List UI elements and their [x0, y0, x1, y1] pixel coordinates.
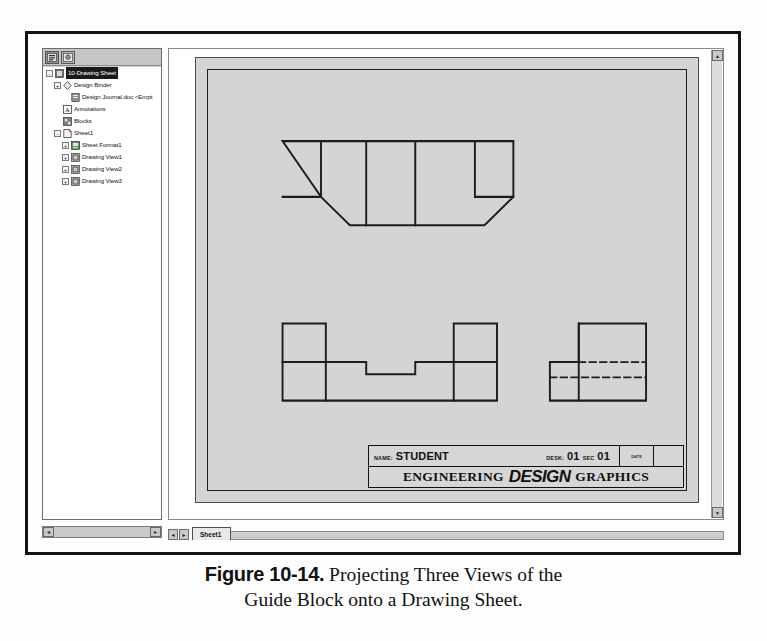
title-block-row-department: ENGINEERING DESIGN GRAPHICS — [369, 467, 683, 487]
tab-prev-button[interactable]: ◄ — [168, 529, 178, 540]
tree-item-label: Sheet1 — [74, 127, 93, 139]
tree-indent-spacer — [62, 94, 69, 101]
tree-item-label: Design Journal.doc <Empt — [82, 91, 152, 103]
tree-item-label: Blocks — [74, 115, 92, 127]
tree-horizontal-scrollbar[interactable]: ◄ ► — [42, 526, 162, 538]
right-arrow-icon: ► — [153, 529, 158, 535]
cad-application-window: -10-Drawing Sheet+Design BinderDesign Jo… — [25, 31, 741, 555]
department-word-graphics: GRAPHICS — [575, 469, 649, 485]
tree-item-sheet1[interactable]: -Sheet1 — [43, 127, 161, 139]
sheet-format-icon — [71, 141, 80, 150]
tab-prev-arrow-icon: ◄ — [171, 532, 176, 538]
name-label: NAME: — [374, 455, 393, 461]
sec-value: 01 — [597, 450, 610, 462]
desk-value: 01 — [567, 450, 580, 462]
feature-manager-tab-strip — [43, 49, 161, 66]
tree-indent-spacer — [54, 106, 61, 113]
side-view-hidden-lines — [550, 362, 646, 377]
drawing-graphics-area[interactable]: NAME: STUDENT DESK: 01 SEC 01 DATE — [168, 48, 724, 520]
tree-item-label: Drawing View3 — [82, 175, 122, 187]
tree-item-sheet-format1[interactable]: +Sheet Format1 — [43, 139, 161, 151]
tab-bar-filler — [231, 531, 724, 540]
drawing-view-icon — [71, 177, 80, 186]
sec-label: SEC — [583, 455, 595, 461]
tree-item-label: Drawing View1 — [82, 151, 122, 163]
collapse-toggle-icon[interactable]: - — [54, 130, 61, 137]
top-view-geometry — [283, 141, 514, 225]
sheet-tab-sheet1[interactable]: Sheet1 — [192, 527, 231, 540]
down-arrow-icon: ▼ — [715, 510, 720, 516]
tab-next-button[interactable]: ► — [179, 529, 189, 540]
tree-item-drawing-view3[interactable]: +Drawing View3 — [43, 175, 161, 187]
expand-toggle-icon[interactable]: + — [62, 178, 69, 185]
blocks-icon — [63, 117, 72, 126]
title-block-empty-cell — [653, 446, 683, 466]
left-arrow-icon: ◄ — [46, 529, 51, 535]
tree-scroll-right-button[interactable]: ► — [150, 527, 161, 537]
tree-item-design-journal-doc-empt[interactable]: Design Journal.doc <Empt — [43, 91, 161, 103]
drawing-document-icon — [55, 69, 64, 78]
figure-caption: Figure 10-14. Projecting Three Views of … — [0, 562, 767, 612]
tab-next-arrow-icon: ► — [182, 532, 187, 538]
tree-item-drawing-view2[interactable]: +Drawing View2 — [43, 163, 161, 175]
front-view-geometry — [283, 324, 497, 401]
property-manager-tab[interactable] — [61, 51, 75, 64]
annotations-icon: A — [63, 105, 72, 114]
expand-toggle-icon[interactable]: + — [54, 82, 61, 89]
svg-text:A: A — [65, 106, 70, 113]
orthographic-views-drawing — [196, 58, 698, 502]
graphics-vertical-scrollbar[interactable]: ▲ ▼ — [711, 50, 722, 518]
feature-manager-panel: -10-Drawing Sheet+Design BinderDesign Jo… — [42, 48, 162, 520]
date-label: DATE — [631, 454, 642, 459]
sheet-tab-bar: ◄ ► Sheet1 — [168, 526, 724, 540]
collapse-toggle-icon[interactable]: - — [46, 70, 53, 77]
figure-number: Figure 10-14. — [205, 563, 324, 585]
department-word-engineering: ENGINEERING — [403, 469, 504, 485]
tree-item-10-drawing-sheet[interactable]: -10-Drawing Sheet — [43, 67, 161, 79]
tree-item-label: Annotations — [74, 103, 106, 115]
title-block[interactable]: NAME: STUDENT DESK: 01 SEC 01 DATE — [368, 445, 684, 488]
tree-item-label: Sheet Format1 — [82, 139, 122, 151]
tree-scroll-track[interactable] — [54, 527, 150, 537]
tree-item-annotations[interactable]: AAnnotations — [43, 103, 161, 115]
caption-line-1: Projecting Three Views of the — [324, 564, 562, 585]
department-word-design: DESIGN — [509, 467, 571, 487]
name-value: STUDENT — [396, 450, 449, 462]
tree-item-label: Design Binder — [74, 79, 112, 91]
expand-toggle-icon[interactable]: + — [62, 166, 69, 173]
expand-toggle-icon[interactable]: + — [62, 142, 69, 149]
tree-item-drawing-view1[interactable]: +Drawing View1 — [43, 151, 161, 163]
tree-scroll-left-button[interactable]: ◄ — [43, 527, 54, 537]
tree-item-blocks[interactable]: Blocks — [43, 115, 161, 127]
desk-label: DESK: — [546, 455, 564, 461]
tree-item-design-binder[interactable]: +Design Binder — [43, 79, 161, 91]
tree-item-label: 10-Drawing Sheet — [66, 67, 118, 79]
caption-line-2: Guide Block onto a Drawing Sheet. — [0, 588, 767, 612]
drawing-view-icon — [71, 165, 80, 174]
title-block-date-cell: DATE — [619, 446, 653, 466]
design-binder-icon — [63, 81, 72, 90]
drawing-view-icon — [71, 153, 80, 162]
drawing-sheet[interactable]: NAME: STUDENT DESK: 01 SEC 01 DATE — [195, 57, 699, 503]
feature-tree-icon — [47, 53, 57, 62]
scroll-up-button[interactable]: ▲ — [712, 50, 723, 61]
feature-tree-list[interactable]: -10-Drawing Sheet+Design BinderDesign Jo… — [43, 67, 161, 519]
sheet-icon — [63, 129, 72, 138]
expand-toggle-icon[interactable]: + — [62, 154, 69, 161]
tree-item-label: Drawing View2 — [82, 163, 122, 175]
tree-indent-spacer — [54, 118, 61, 125]
title-block-name-field: NAME: STUDENT — [369, 450, 546, 462]
journal-document-icon — [71, 93, 80, 102]
title-block-desk-field: DESK: 01 SEC 01 — [546, 450, 619, 462]
feature-manager-tab[interactable] — [45, 51, 59, 64]
title-block-row-info: NAME: STUDENT DESK: 01 SEC 01 DATE — [369, 446, 683, 467]
window-client-area: -10-Drawing Sheet+Design BinderDesign Jo… — [28, 34, 738, 552]
scroll-down-button[interactable]: ▼ — [712, 507, 723, 518]
up-arrow-icon: ▲ — [715, 53, 720, 59]
property-manager-icon — [63, 53, 73, 62]
